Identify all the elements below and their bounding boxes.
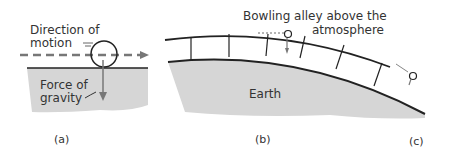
motion-arrowhead xyxy=(140,51,149,59)
gravity-label-line1: Force of xyxy=(40,78,89,92)
falling-ball-arrow xyxy=(409,79,411,85)
caption-c: (c) xyxy=(409,135,424,148)
caption-a: (a) xyxy=(54,133,69,146)
earth-label: Earth xyxy=(249,87,281,101)
motion-label-line1: Direction of xyxy=(30,23,100,37)
panel-b: Bowling alley above the atmosphere Earth… xyxy=(165,9,425,146)
falling-ball xyxy=(410,73,417,80)
panel-a: Direction of motion Force of gravity (a) xyxy=(20,23,149,146)
bowling-label-line1: Bowling alley above the xyxy=(243,9,387,23)
support-pillar xyxy=(374,63,382,86)
caption-b: (b) xyxy=(255,133,271,146)
motion-label-line2: motion xyxy=(30,36,72,50)
motion-lines-icon xyxy=(83,43,93,46)
ball-gravity-arrowhead xyxy=(285,48,289,54)
support-pillar xyxy=(336,45,344,69)
bowling-ball xyxy=(285,31,292,38)
ball-trail-c xyxy=(396,64,408,72)
gravity-label-line2: gravity xyxy=(40,91,82,105)
bowling-label-line2: atmosphere xyxy=(312,23,384,37)
support-pillar xyxy=(300,36,305,58)
physics-diagram: Direction of motion Force of gravity (a)… xyxy=(0,0,450,160)
